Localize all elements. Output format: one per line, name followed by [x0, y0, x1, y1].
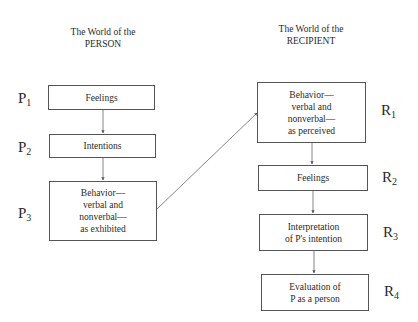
label-p1: P1 [18, 90, 31, 111]
label-r2: R2 [382, 169, 397, 190]
label-r1: R1 [381, 102, 396, 123]
box-p1-feelings: Feelings [48, 85, 155, 110]
box-p3-behavior-exhibited: Behavior— verbal and nonverbal— as exhib… [49, 181, 157, 241]
box-r2-feelings: Feelings [258, 165, 368, 191]
box-r3-interpretation: Interpretation of P's intention [259, 214, 368, 251]
box-r1-behavior-perceived: Behavior— verbal and nonverbal— as perce… [257, 82, 366, 143]
box-r4-evaluation: Evaluation of P as a person [261, 274, 369, 311]
label-p3: P3 [18, 205, 31, 226]
box-p2-intentions: Intentions [49, 134, 156, 158]
arrow-p3-r1 [157, 113, 257, 209]
label-r4: R4 [384, 283, 399, 304]
label-p2: P2 [18, 139, 31, 160]
label-r3: R3 [383, 224, 398, 245]
